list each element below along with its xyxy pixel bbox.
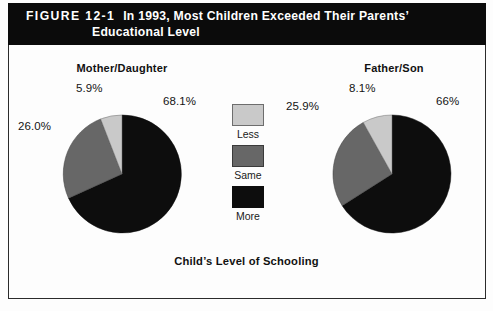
axis-caption: Child’s Level of Schooling	[0, 255, 493, 267]
figure-title-text-1: In 1993, Most Children Exceeded Their Pa…	[123, 9, 409, 23]
legend-item-less: Less	[222, 104, 274, 140]
legend-label-same: Same	[222, 169, 274, 181]
pct-label-more-right: 66%	[436, 95, 459, 107]
legend-swatch-more-icon	[232, 186, 264, 208]
legend-item-more: More	[222, 186, 274, 222]
pie-chart-title-right: Father/Son	[332, 62, 456, 74]
pct-label-less-left: 5.9%	[76, 82, 103, 94]
legend-item-same: Same	[222, 145, 274, 181]
legend-swatch-same-icon	[232, 145, 264, 167]
legend-label-less: Less	[222, 128, 274, 140]
figure-number: FIGURE 12-1	[26, 9, 115, 23]
pie-chart-title-left: Mother/Daughter	[60, 62, 184, 74]
pct-label-more-left: 68.1%	[163, 95, 196, 107]
pct-label-same-left: 26.0%	[18, 120, 51, 132]
legend-swatch-less-icon	[232, 104, 264, 126]
chart-legend: Less Same More	[222, 104, 274, 227]
pct-label-same-right: 25.9%	[286, 100, 319, 112]
figure-header-bar: FIGURE 12-1In 1993, Most Children Exceed…	[8, 3, 486, 45]
figure-container: FIGURE 12-1In 1993, Most Children Exceed…	[0, 0, 493, 311]
figure-title-line-1: FIGURE 12-1In 1993, Most Children Exceed…	[26, 9, 486, 25]
pct-label-less-right: 8.1%	[349, 82, 376, 94]
figure-title-line-2: Educational Level	[26, 25, 486, 41]
legend-label-more: More	[222, 210, 274, 222]
pie-chart-mother-daughter	[60, 112, 184, 236]
pie-chart-father-son	[330, 112, 454, 236]
